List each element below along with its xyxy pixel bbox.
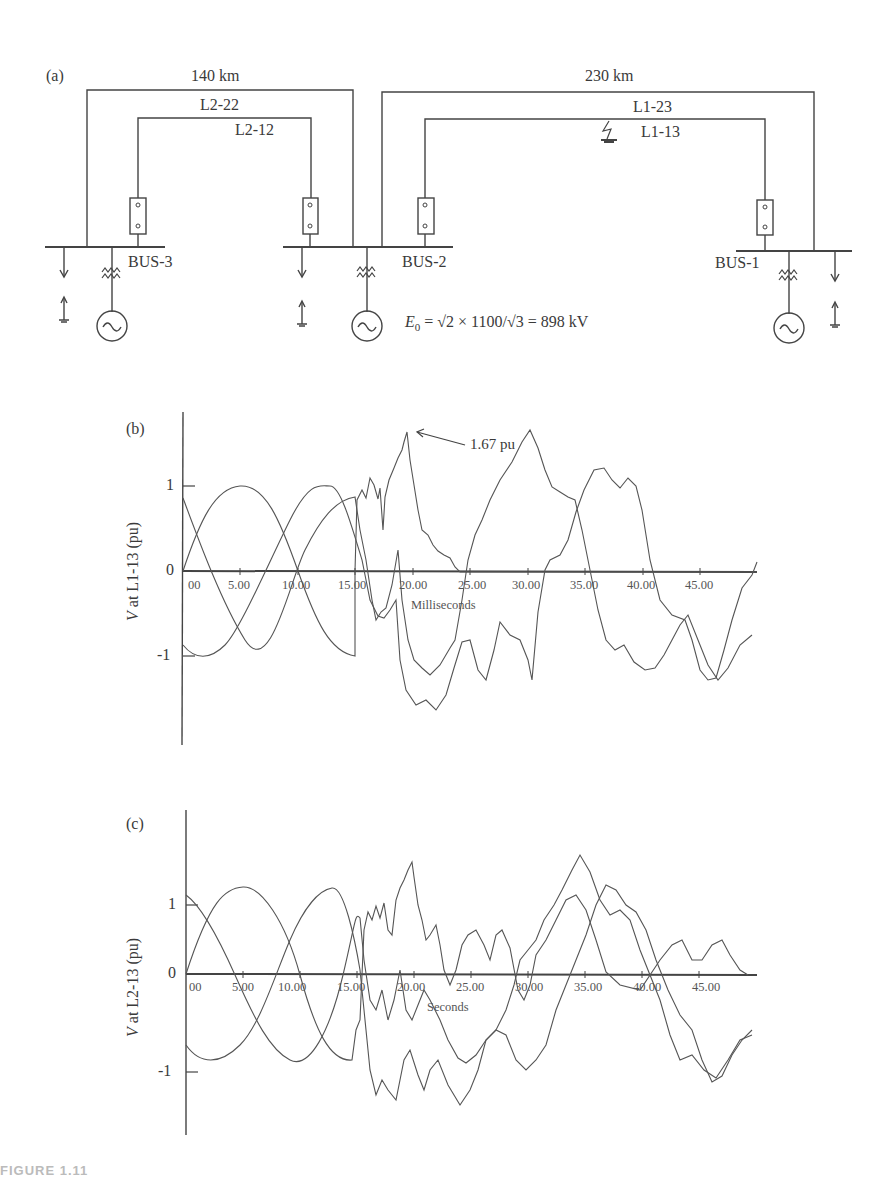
panel-c-ytick-neg1: -1 bbox=[158, 1062, 171, 1080]
panel-c-ytick-1: 1 bbox=[168, 895, 176, 913]
panel-c-xtick-30: 30.00 bbox=[515, 980, 543, 995]
shunt-ground-bus2-icon bbox=[297, 301, 307, 326]
panel-c-x-axis-label: Seconds bbox=[427, 1000, 469, 1015]
panel-c-xtick-20: 20.00 bbox=[397, 980, 425, 995]
bus-1-label: BUS-1 bbox=[715, 254, 759, 272]
circuit-label-l1-23: L1-23 bbox=[633, 98, 672, 116]
panel-a-diagram bbox=[45, 90, 852, 343]
line-230km-l1-23 bbox=[382, 92, 814, 251]
shunt-ground-bus3-icon bbox=[59, 297, 69, 322]
panel-c-label: (c) bbox=[126, 815, 144, 833]
panel-a-label: (a) bbox=[46, 67, 64, 85]
line-l2-12 bbox=[138, 118, 311, 198]
load-arrow-bus1-icon bbox=[831, 251, 839, 281]
panel-b-x-axis-label: Milliseconds bbox=[411, 598, 476, 613]
panel-b-xtick-35: 35.00 bbox=[570, 578, 598, 593]
panel-c-xtick-40: 40.00 bbox=[633, 980, 661, 995]
panel-b-ytick-0: 0 bbox=[166, 561, 174, 579]
transformer-bus2-icon bbox=[357, 267, 375, 277]
circuit-label-l2-22: L2-22 bbox=[200, 96, 239, 114]
panel-b-y-axis-label: V at L1-13 (pu) bbox=[124, 522, 142, 621]
panel-b-ytick-1: 1 bbox=[166, 476, 174, 494]
panel-c-xtick-45: 45.00 bbox=[692, 980, 720, 995]
panel-b-xtick-10: 10.00 bbox=[282, 578, 310, 593]
line-length-140km: 140 km bbox=[191, 67, 239, 85]
panel-c-xtick-10: 10.00 bbox=[278, 980, 306, 995]
load-arrow-bus3-icon bbox=[60, 247, 68, 277]
panel-c-xtick-0: 00 bbox=[189, 980, 202, 995]
load-arrow-bus2-icon bbox=[298, 247, 306, 277]
peak-annotation: 1.67 pu bbox=[470, 436, 515, 453]
panel-c-y-axis-label: V at L2-13 (pu) bbox=[124, 938, 142, 1037]
panel-c-phase-b-trace bbox=[186, 855, 752, 1078]
panel-b-phase-b-trace bbox=[183, 430, 752, 680]
panel-b-label: (b) bbox=[126, 420, 145, 438]
panel-b-ytick-neg1: -1 bbox=[157, 646, 170, 664]
generator-bus2-icon bbox=[352, 311, 382, 341]
transformer-bus3-icon bbox=[102, 268, 120, 278]
panel-c-xtick-25: 25.00 bbox=[456, 980, 484, 995]
panel-b-y-axis bbox=[182, 412, 183, 745]
panel-c-ytick-0: 0 bbox=[168, 964, 176, 982]
panel-b-xtick-40: 40.00 bbox=[627, 578, 655, 593]
circuit-label-l1-13: L1-13 bbox=[641, 123, 680, 141]
annotation-arrow-icon bbox=[417, 429, 465, 445]
line-length-230km: 230 km bbox=[585, 67, 633, 85]
panel-b-xtick-0: 00 bbox=[188, 578, 201, 593]
figure-caption: FIGURE 1.11 bbox=[0, 1163, 88, 1178]
panel-c-phase-a-trace bbox=[186, 862, 748, 1060]
transformer-bus1-icon bbox=[779, 270, 797, 280]
circuit-label-l2-12: L2-12 bbox=[235, 121, 274, 139]
panel-b-xtick-15: 15.00 bbox=[338, 578, 366, 593]
panel-c-xtick-35: 35.00 bbox=[574, 980, 602, 995]
source-voltage-equation: E0 = √2 × 1100/√3 = 898 kV bbox=[405, 313, 588, 333]
panel-c-phase-c-trace bbox=[186, 885, 752, 1105]
panel-b-xtick-45: 45.00 bbox=[685, 578, 713, 593]
panel-c-xtick-5: 5.00 bbox=[232, 980, 254, 995]
panel-b-xtick-20: 20.00 bbox=[399, 578, 427, 593]
bus-3-label: BUS-3 bbox=[128, 253, 172, 271]
generator-bus1-icon bbox=[774, 313, 804, 343]
panel-b-xtick-5: 5.00 bbox=[228, 578, 250, 593]
panel-b-phase-a-trace bbox=[183, 432, 757, 656]
shunt-ground-bus1-icon bbox=[830, 302, 840, 327]
fault-lightning-icon bbox=[601, 121, 617, 142]
panel-b-xtick-30: 30.00 bbox=[512, 578, 540, 593]
generator-bus3-icon bbox=[97, 311, 127, 341]
panel-c-xtick-15: 15.00 bbox=[337, 980, 365, 995]
line-l1-13 bbox=[425, 119, 765, 200]
panel-b-xtick-25: 25.00 bbox=[458, 578, 486, 593]
bus-2-label: BUS-2 bbox=[402, 253, 446, 271]
